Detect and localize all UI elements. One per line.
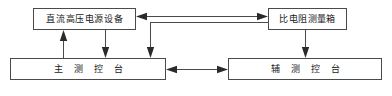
edge-main-to-aux (166, 66, 228, 73)
node-label: 比电阻测量箱 (279, 15, 336, 24)
node-label: 直流高压电源设备 (46, 15, 123, 24)
arrowhead-down (302, 47, 309, 58)
edge-resistivity-to-hv (136, 13, 268, 20)
edge-resistivity-to-aux (302, 30, 309, 58)
node-main-measurement-control-console: 主测控台 (10, 58, 166, 80)
node-auxiliary-measurement-control-console: 辅测控台 (228, 58, 382, 80)
node-dc-high-voltage-power-supply: 直流高压电源设备 (33, 8, 136, 30)
arrowhead-up (60, 30, 67, 41)
node-label: 辅测控台 (260, 65, 351, 74)
node-resistivity-measurement-box: 比电阻测量箱 (268, 8, 347, 30)
arrowhead-right (217, 66, 228, 73)
arrowhead-down (147, 47, 154, 58)
edge-hv-to-main (102, 30, 109, 58)
arrowhead-down (102, 47, 109, 58)
arrowhead-left (166, 66, 177, 73)
edge-resistivity-to-main (147, 23, 268, 59)
edge-main-to-hv (60, 30, 67, 58)
node-label: 主测控台 (43, 65, 134, 74)
arrowhead-right (257, 13, 268, 20)
arrowhead-left (136, 13, 147, 20)
system-block-diagram: 直流高压电源设备 比电阻测量箱 主测控台 辅测控台 (0, 0, 392, 96)
